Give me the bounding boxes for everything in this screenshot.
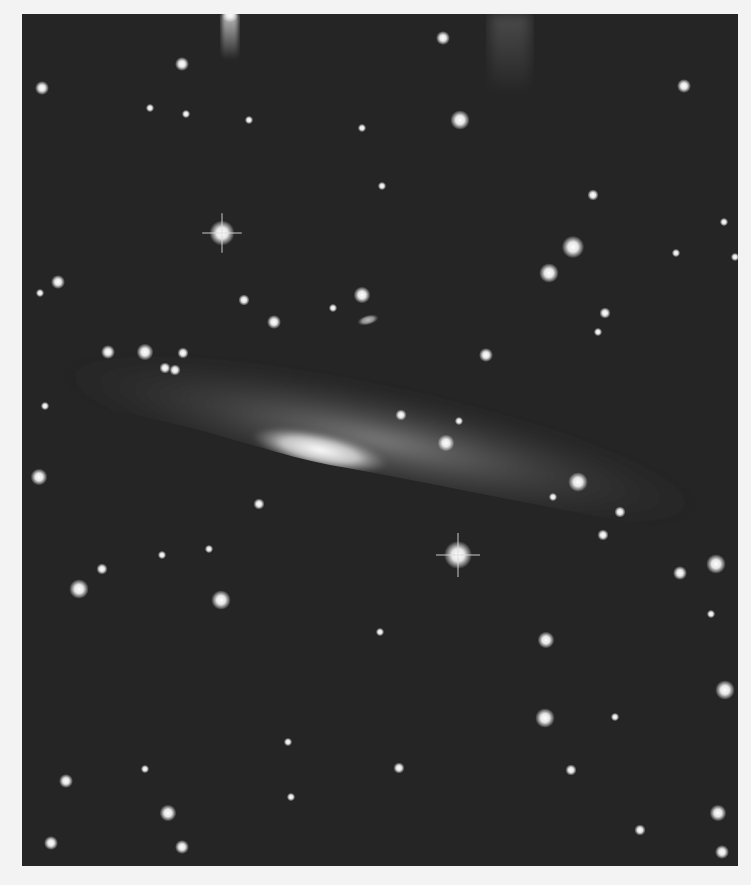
star <box>245 116 253 124</box>
star <box>455 417 463 425</box>
star <box>677 79 691 93</box>
star <box>169 364 180 375</box>
star <box>673 566 687 580</box>
star <box>44 836 58 850</box>
glare-streak <box>490 14 530 94</box>
star <box>614 506 625 517</box>
star <box>146 104 154 112</box>
star <box>535 708 555 728</box>
star <box>706 554 726 574</box>
star <box>69 579 89 599</box>
star <box>599 307 610 318</box>
star <box>710 805 727 822</box>
star <box>450 110 470 130</box>
small-galaxy <box>356 312 380 327</box>
star <box>205 545 213 553</box>
star <box>141 765 149 773</box>
star <box>715 845 729 859</box>
star <box>51 275 65 289</box>
star <box>715 680 735 700</box>
star <box>175 57 189 71</box>
star <box>720 218 728 226</box>
star-field <box>22 14 738 866</box>
star <box>354 287 371 304</box>
star <box>329 304 337 312</box>
star <box>137 344 154 361</box>
star <box>565 764 576 775</box>
star <box>707 610 715 618</box>
star <box>31 469 48 486</box>
star <box>253 498 264 509</box>
star <box>378 182 386 190</box>
star <box>287 793 295 801</box>
star <box>539 263 559 283</box>
star <box>96 563 107 574</box>
star <box>562 236 584 258</box>
star <box>41 402 49 410</box>
star <box>538 632 555 649</box>
galaxy-photograph <box>22 14 738 866</box>
star <box>597 529 608 540</box>
star <box>35 81 49 95</box>
star <box>393 762 404 773</box>
star <box>587 189 598 200</box>
star <box>177 347 188 358</box>
star <box>672 249 680 257</box>
star <box>101 345 115 359</box>
star <box>568 472 588 492</box>
star <box>376 628 384 636</box>
star <box>267 315 281 329</box>
star <box>549 493 557 501</box>
star <box>634 824 645 835</box>
star <box>175 840 189 854</box>
star <box>358 124 366 132</box>
star <box>479 348 493 362</box>
star <box>182 110 190 118</box>
star <box>211 590 231 610</box>
star <box>436 31 450 45</box>
star <box>611 713 619 721</box>
star <box>395 409 406 420</box>
star <box>438 435 455 452</box>
star <box>160 805 177 822</box>
star <box>36 289 44 297</box>
star <box>159 362 170 373</box>
star <box>284 738 292 746</box>
star <box>594 328 602 336</box>
star <box>59 774 73 788</box>
star <box>731 253 738 261</box>
star <box>238 294 249 305</box>
star <box>158 551 166 559</box>
